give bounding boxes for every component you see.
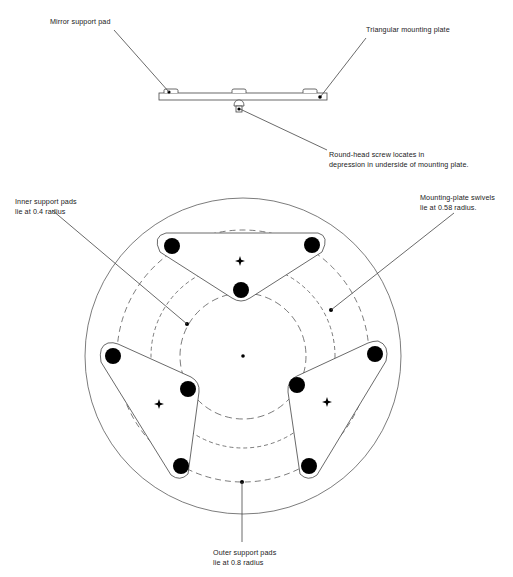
label-triangular-mounting-plate: Triangular mounting plate: [366, 25, 450, 35]
pad-left-inner: [180, 381, 196, 397]
mounting-plate-side: [159, 93, 327, 100]
pad-left-outer: [105, 348, 121, 364]
pad-top-right: [304, 237, 320, 253]
label-outer-line1: Outer support pads: [213, 548, 276, 558]
round-head-screw: [234, 100, 244, 106]
label-inner-line1: Inner support pads: [15, 197, 77, 207]
label-round-head-screw: Round-head screw locates in depression i…: [329, 150, 469, 169]
label-outer-support-pads: Outer support pads lie at 0.8 radius: [213, 548, 276, 567]
mirror-pad-right: [303, 89, 317, 93]
leader-mounting-plate: [321, 38, 366, 96]
label-inner-line2: lie at 0.4 radius: [15, 207, 77, 217]
pad-right-inner: [289, 377, 305, 393]
mirror-pad-left: [164, 89, 178, 93]
label-mounting-plate-swivels: Mounting-plate swivels lie at 0.58 radiu…: [420, 193, 495, 212]
leader-inner-pads: [52, 210, 187, 324]
label-swivel-line2: lie at 0.58 radius.: [420, 203, 495, 213]
pad-top-inner: [233, 282, 249, 298]
label-swivel-line1: Mounting-plate swivels: [420, 193, 495, 203]
plan-view: [52, 198, 454, 542]
pad-right-outer: [367, 346, 383, 362]
pad-top-left: [164, 238, 180, 254]
label-outer-line2: lie at 0.8 radius: [213, 558, 276, 568]
label-screw-line2: depression in underside of mounting plat…: [329, 160, 469, 170]
center-dot: [241, 354, 245, 358]
leader-mirror-pad: [114, 30, 169, 92]
leader-screw: [240, 109, 327, 150]
side-view: [114, 30, 366, 150]
label-screw-line1: Round-head screw locates in: [329, 150, 469, 160]
label-inner-support-pads: Inner support pads lie at 0.4 radius: [15, 197, 77, 216]
mirror-pad-center: [232, 89, 246, 93]
diagram-canvas: [0, 0, 513, 577]
pad-left-bottom: [173, 458, 189, 474]
leader-swivels: [331, 213, 454, 310]
label-mirror-support-pad: Mirror support pad: [50, 17, 111, 27]
plate-right: [288, 341, 387, 478]
pad-right-bottom: [301, 458, 317, 474]
